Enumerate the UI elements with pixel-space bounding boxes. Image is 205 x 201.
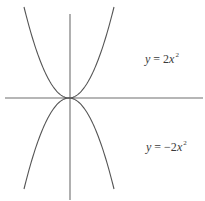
label-xvar: x	[177, 140, 182, 154]
parabola-plot	[0, 0, 205, 201]
label-exp: 2	[183, 139, 187, 147]
curve-y-equals-2x-squared	[24, 7, 114, 98]
label-lower-curve: y = −2x2	[146, 139, 187, 155]
label-xvar: x	[169, 52, 174, 66]
label-exp: 2	[175, 51, 179, 59]
label-eq: = 2	[150, 52, 169, 66]
curve-y-equals-neg-2x-squared	[24, 98, 114, 189]
label-eq: = −2	[151, 140, 177, 154]
label-upper-curve: y = 2x2	[145, 51, 179, 67]
